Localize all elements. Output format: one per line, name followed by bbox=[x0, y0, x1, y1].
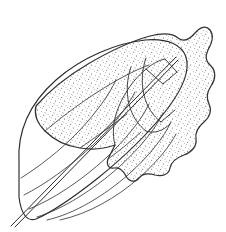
mine-stipple-group bbox=[35, 27, 214, 181]
leaf-illustration bbox=[0, 0, 226, 232]
figure-container bbox=[0, 0, 226, 232]
mine-stipple-fill bbox=[35, 27, 214, 181]
